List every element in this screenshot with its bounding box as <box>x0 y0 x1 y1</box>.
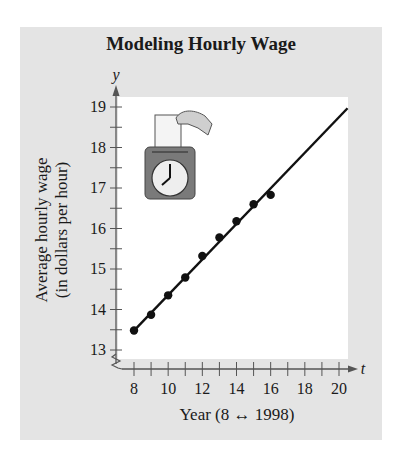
x-tick-label: 20 <box>331 380 347 397</box>
x-tick-label: 12 <box>194 380 210 397</box>
data-point <box>147 311 155 319</box>
x-axis-variable: t <box>361 360 366 377</box>
x-axis-title: Year (8 ↔ 1998) <box>180 405 295 424</box>
y-tick-label: 14 <box>90 301 106 318</box>
x-tick-label: 16 <box>263 380 279 397</box>
data-point <box>164 291 172 299</box>
data-point <box>215 233 223 241</box>
y-axis-arrow-icon <box>113 85 120 96</box>
chart-plot: 131415161718198101214161820 Average hour… <box>0 0 406 462</box>
x-tick-label: 8 <box>130 380 138 397</box>
data-point <box>198 252 206 260</box>
x-tick-label: 18 <box>297 380 313 397</box>
y-axis-variable: y <box>110 66 120 84</box>
x-tick-label: 14 <box>229 380 245 397</box>
data-point <box>249 200 257 208</box>
y-tick-label: 16 <box>90 220 106 237</box>
y-axis-title-line2: (in dollars per hour) <box>52 162 71 298</box>
data-point <box>232 217 240 225</box>
data-point <box>181 273 189 281</box>
y-axis-title-line1: Average hourly wage <box>32 157 51 302</box>
y-tick-label: 17 <box>90 179 106 196</box>
y-tick-label: 13 <box>90 341 106 358</box>
x-axis-arrow-icon <box>348 366 358 373</box>
x-tick-label: 10 <box>160 380 176 397</box>
y-tick-label: 15 <box>90 260 106 277</box>
data-point <box>130 326 138 334</box>
data-point <box>266 191 274 199</box>
y-tick-label: 19 <box>90 98 106 115</box>
y-tick-label: 18 <box>90 139 106 156</box>
